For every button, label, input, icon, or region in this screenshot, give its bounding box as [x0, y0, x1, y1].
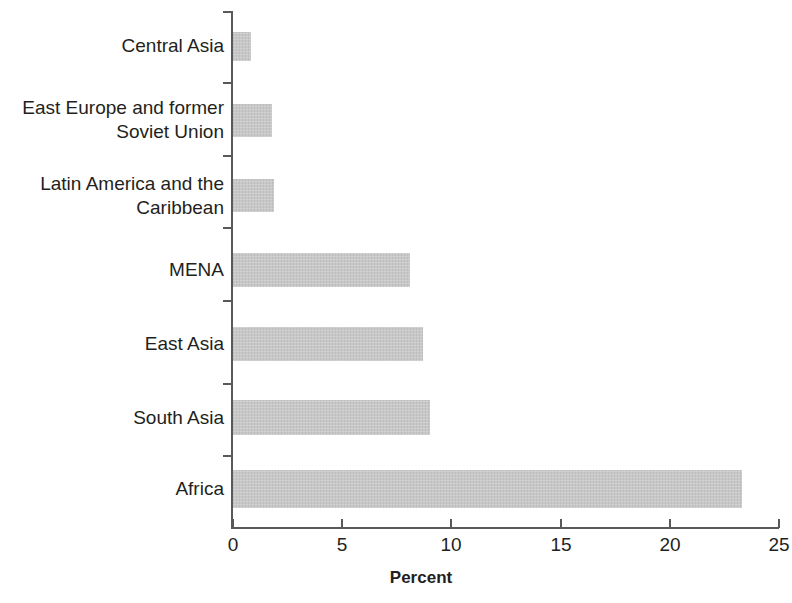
y-axis-tick: [223, 155, 232, 157]
x-axis-label-15: 15: [531, 534, 591, 556]
x-axis-title: Percent: [0, 568, 792, 588]
y-axis-tick: [223, 383, 232, 385]
x-axis-tick-25: [778, 519, 780, 528]
category-label-east-europe: East Europe and former Soviet Union: [22, 96, 224, 144]
x-axis-line: [232, 527, 779, 529]
bar-chart: Central Asia East Europe and former Sovi…: [0, 0, 792, 603]
bar-mena: [233, 253, 410, 287]
y-axis-tick: [223, 11, 232, 13]
x-axis-tick-5: [341, 519, 343, 528]
x-axis-tick-10: [450, 519, 452, 528]
x-axis-tick-15: [560, 519, 562, 528]
x-axis-tick-20: [669, 519, 671, 528]
y-axis-tick: [223, 227, 232, 229]
y-axis-tick: [223, 300, 232, 302]
x-axis-label-5: 5: [312, 534, 372, 556]
bar-east-europe: [233, 104, 272, 137]
bar-central-asia: [233, 32, 251, 61]
category-label-south-asia: South Asia: [133, 406, 224, 430]
bar-east-asia: [233, 327, 423, 361]
bar-latin-america: [233, 179, 274, 212]
y-axis-tick: [223, 455, 232, 457]
category-label-central-asia: Central Asia: [122, 34, 224, 58]
category-label-africa: Africa: [175, 477, 224, 501]
bar-south-asia: [233, 400, 430, 435]
x-axis-label-10: 10: [421, 534, 481, 556]
category-label-mena: MENA: [169, 258, 224, 282]
category-label-latin-america: Latin America and the Caribbean: [40, 172, 224, 220]
category-label-east-asia: East Asia: [145, 332, 224, 356]
bar-africa: [233, 470, 742, 508]
x-axis-label-20: 20: [640, 534, 700, 556]
x-axis-tick-0: [232, 519, 234, 528]
y-axis-tick: [223, 82, 232, 84]
x-axis-label-25: 25: [749, 534, 792, 556]
x-axis-label-0: 0: [203, 534, 263, 556]
